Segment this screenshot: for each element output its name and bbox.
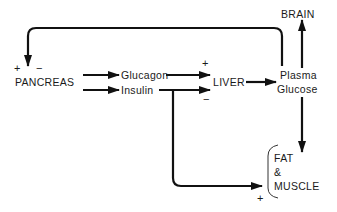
glucagon-label: Glucagon	[121, 70, 168, 81]
feedback-arrow	[28, 28, 282, 66]
insulin-label: Insulin	[121, 85, 153, 96]
insulin-fat-muscle-arrow	[173, 90, 262, 186]
pancreas-plus-sign: +	[14, 63, 20, 74]
brain-label: BRAIN	[281, 9, 315, 20]
insulin-fat-muscle-plus-sign: +	[257, 193, 263, 204]
pancreas-label: PANCREAS	[15, 77, 74, 88]
plasma-label: Plasma	[280, 70, 317, 81]
glucagon-liver-plus-sign: +	[202, 58, 208, 69]
fat-label: FAT	[274, 153, 293, 164]
liver-label: LIVER	[213, 77, 245, 88]
pancreas-minus-sign: −	[36, 63, 42, 74]
glucose-label: Glucose	[277, 84, 318, 95]
muscle-label: MUSCLE	[274, 181, 320, 192]
ampersand-label: &	[274, 167, 281, 178]
insulin-liver-minus-sign: −	[203, 94, 209, 105]
